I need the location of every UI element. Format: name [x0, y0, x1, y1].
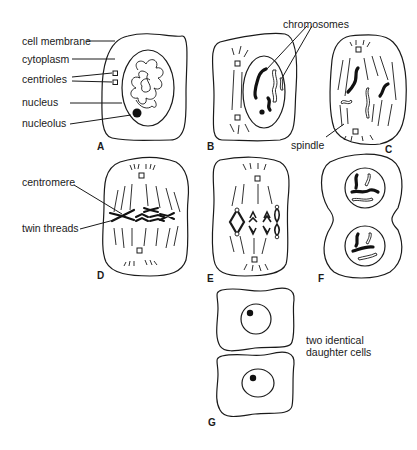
label-nucleus: nucleus [22, 96, 58, 108]
spindle-fibers [230, 46, 249, 134]
nucleolus-dot [250, 375, 256, 381]
panel-c: spindle C [291, 35, 406, 155]
centriole-square [113, 80, 118, 85]
label-cell-membrane: cell membrane [22, 35, 91, 47]
centriole-square [255, 176, 260, 181]
nucleolus-dot [247, 310, 253, 316]
leader-line-spindle [326, 124, 344, 137]
nucleus-shape [241, 304, 271, 334]
panel-a: cell membrane cytoplasm centrioles nucle… [22, 34, 187, 152]
label-chromosomes: chromosomes [283, 18, 349, 30]
chromatin-threads [131, 60, 163, 108]
chromosome-light [366, 233, 371, 244]
panel-d: centromere twin threads D [22, 158, 189, 282]
panel-letter-e: E [207, 273, 214, 284]
daughter-cell-top [217, 288, 294, 351]
label-cytoplasm: cytoplasm [22, 53, 70, 65]
centriole-square [137, 248, 142, 253]
panel-letter-a: A [97, 141, 104, 152]
chromosome-dark [255, 69, 266, 98]
panel-letter-d: D [97, 270, 104, 281]
chromosome-dark [356, 175, 357, 188]
nucleolus-dot [133, 109, 142, 118]
chromosome-dark [259, 109, 264, 114]
centriole-square [353, 129, 358, 134]
chromosome-dark [268, 98, 270, 110]
leader-line-centriole-1 [72, 73, 112, 77]
panel-f: F [318, 154, 402, 284]
chromosome-dark [356, 234, 358, 246]
label-twin-threads: twin threads [22, 222, 79, 234]
nucleus-shape [345, 168, 385, 208]
nucleus-shape [243, 56, 285, 128]
label-daughter-cells: daughter cells [306, 346, 371, 358]
leader-line-centromere [74, 185, 122, 214]
panel-b: chromosomes B [207, 18, 349, 152]
mitosis-diagram: cell membrane cytoplasm centrioles nucle… [0, 0, 417, 450]
panel-letter-c: C [385, 144, 392, 155]
panel-letter-f: F [318, 273, 324, 284]
centriole-square [139, 173, 144, 178]
panel-letter-g: G [208, 417, 216, 428]
chromosomes-anaphase [230, 205, 279, 239]
chromosome-light [358, 253, 377, 260]
centriole-square [356, 47, 361, 52]
label-centrioles: centrioles [22, 73, 67, 85]
nucleus-shape [242, 369, 274, 397]
chromosome-light [352, 198, 373, 201]
label-spindle: spindle [291, 139, 324, 151]
panel-g: two identical daughter cells G [208, 288, 371, 428]
chromosomes-metaphase [110, 208, 174, 221]
label-centromere: centromere [22, 176, 75, 188]
chromosome-light [272, 70, 277, 102]
chromosome-dark [380, 84, 388, 96]
label-daughter-cells: two identical [306, 334, 364, 346]
chromosome-light [366, 88, 370, 118]
chromosome-light [341, 100, 352, 104]
centriole-square [235, 61, 240, 66]
chromosome-light [280, 78, 283, 90]
label-nucleolus: nucleolus [22, 117, 66, 129]
leader-line-chromosomes [266, 26, 307, 70]
chromosome-dark [348, 68, 358, 92]
centriole-square [252, 257, 257, 262]
daughter-cell-bottom [217, 352, 294, 416]
chromosome-light [365, 174, 370, 186]
centriole-square [235, 115, 240, 120]
chromosome-dark [352, 190, 378, 192]
centriole-square [113, 71, 118, 76]
leader-line-centriole-2 [72, 81, 112, 82]
leader-line-nucleolus [70, 115, 131, 124]
panel-e: E [207, 157, 289, 284]
leader-line-twin-threads [80, 220, 114, 229]
panel-letter-b: B [207, 141, 214, 152]
